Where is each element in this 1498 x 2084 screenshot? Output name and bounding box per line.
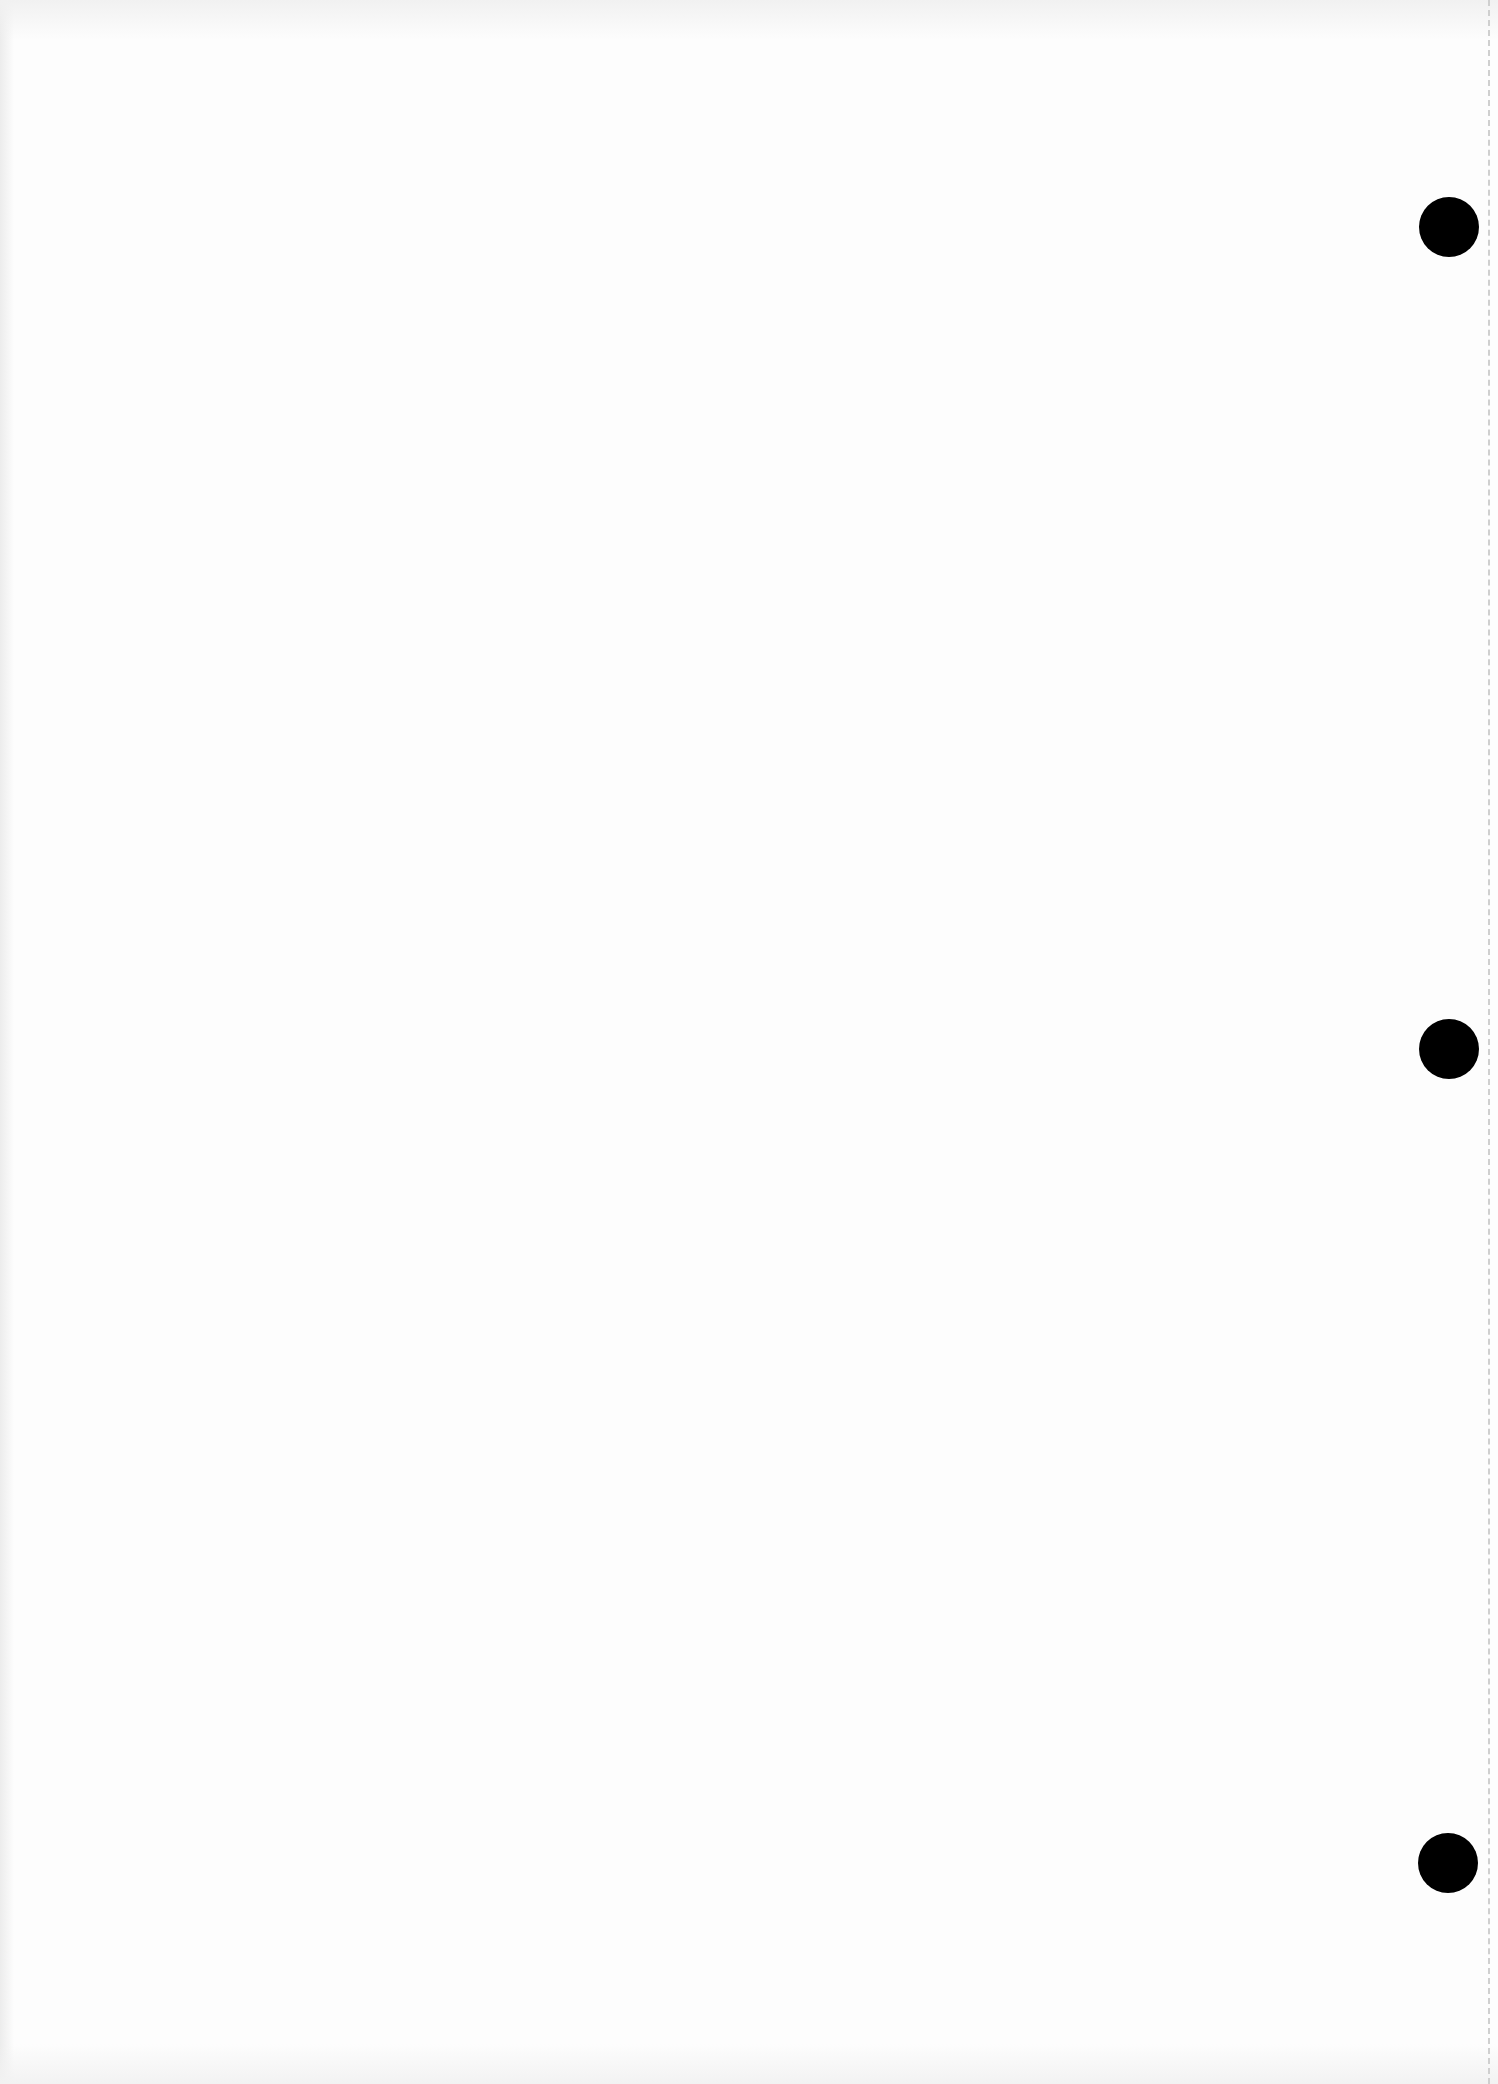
middle-punch-hole — [1419, 1019, 1479, 1079]
bottom-edge-shadow — [0, 2044, 1498, 2084]
bottom-punch-hole — [1418, 1833, 1478, 1893]
left-edge-shadow — [0, 0, 14, 2084]
perforation-line — [1488, 0, 1490, 2084]
top-edge-shadow — [0, 0, 1498, 40]
top-punch-hole — [1419, 197, 1479, 257]
scanned-page — [0, 0, 1498, 2084]
